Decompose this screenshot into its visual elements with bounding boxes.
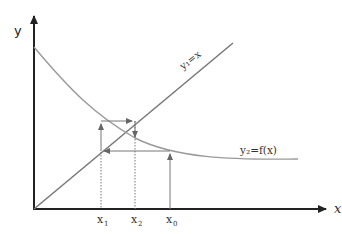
svg-text:x: x xyxy=(97,213,104,226)
fixed-point-iteration-diagram: y x y₁=x y₂=f(x) x 1 x 2 x 0 xyxy=(0,0,342,234)
x0-label: x 0 xyxy=(166,213,177,228)
svg-text:2: 2 xyxy=(138,220,142,228)
identity-line xyxy=(34,43,233,209)
x1-label: x 1 xyxy=(97,213,108,228)
svg-text:x: x xyxy=(131,213,138,226)
identity-line-label: y₁=x xyxy=(177,48,204,72)
y-axis-label: y xyxy=(14,23,22,38)
function-curve-label: y₂=f(x) xyxy=(239,144,277,156)
function-curve xyxy=(34,47,298,159)
x2-label: x 2 xyxy=(131,213,142,228)
svg-text:1: 1 xyxy=(104,220,108,228)
svg-text:x: x xyxy=(166,213,173,226)
x-axis-label: x xyxy=(334,201,342,216)
svg-text:0: 0 xyxy=(173,220,177,228)
